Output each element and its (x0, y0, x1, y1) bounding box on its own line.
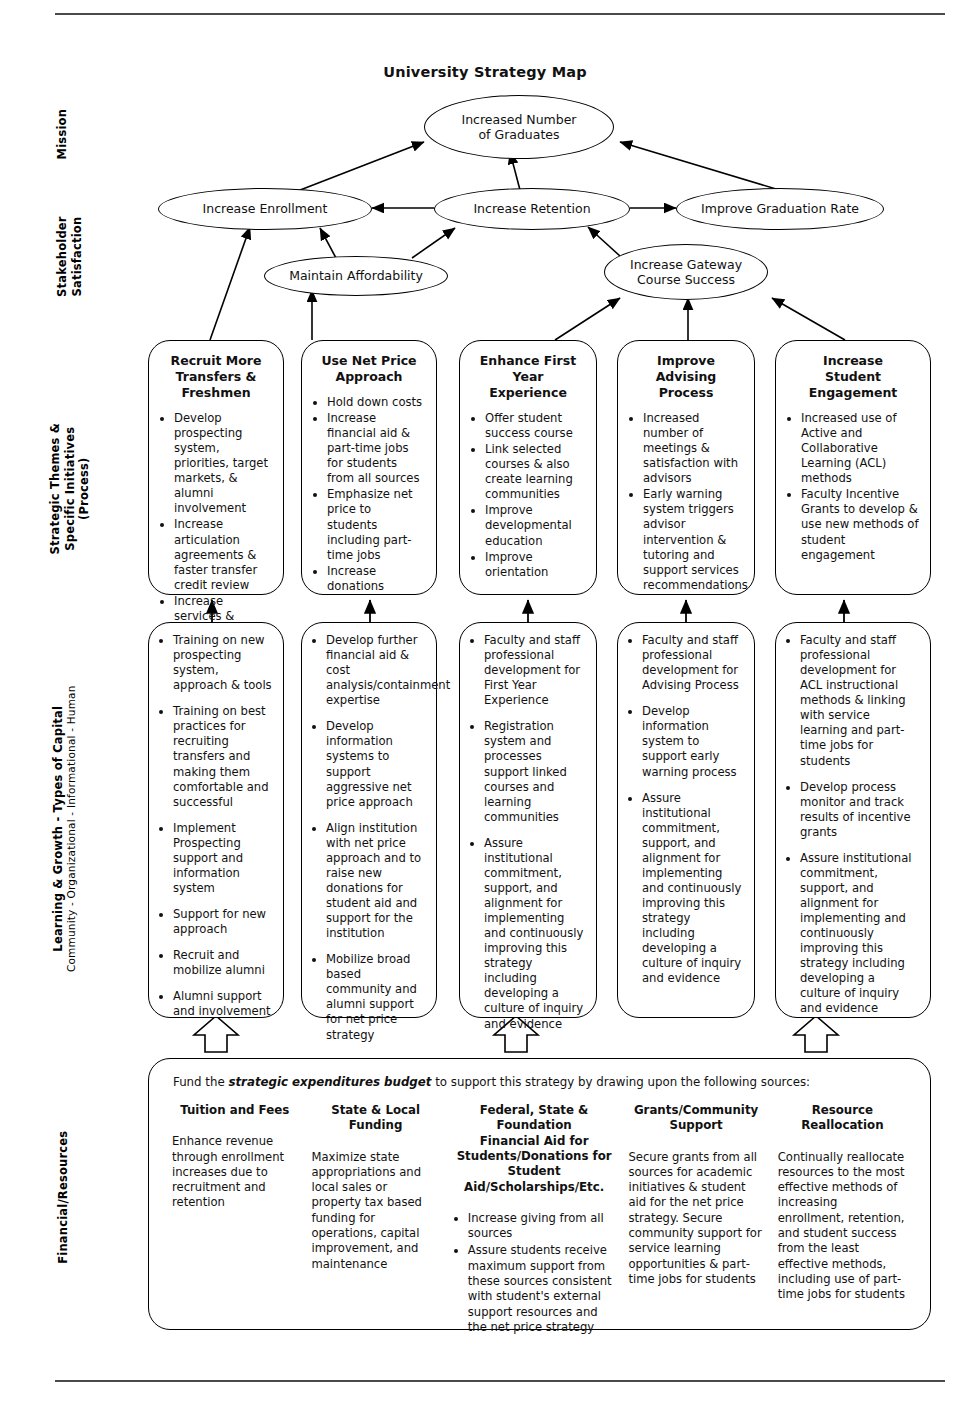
band-label-stakeholder-text: Stakeholder Satisfaction (55, 216, 83, 297)
financial-column-4-body: Secure grants from all sources for acade… (628, 1150, 763, 1288)
capital-box-1-item: Recruit and mobilize alumni (173, 948, 272, 978)
theme-box-2-item: Increase donations (327, 564, 425, 594)
node-mission[interactable]: Increased Number of Graduates (424, 95, 614, 159)
capital-box-1-list: Training on new prospecting system, appr… (160, 633, 272, 1019)
band-label-stakeholder: Stakeholder Satisfaction (41, 184, 84, 329)
capital-box-3-list: Faculty and staff professional developme… (471, 633, 585, 1032)
theme-box-3-item: Improve orientation (485, 550, 585, 580)
financial-column-5-header: Resource Reallocation (778, 1103, 907, 1134)
capital-box-1-item: Implement Prospecting support and inform… (173, 821, 272, 896)
page-rule-top (55, 13, 945, 15)
capital-box-4-item: Develop information system to support ea… (642, 704, 743, 779)
node-maintain-affordability[interactable]: Maintain Affordability (264, 256, 448, 296)
theme-box-5[interactable]: Increase Student Engagement Increased us… (775, 340, 931, 595)
theme-box-2-item: Emphasize net price to students includin… (327, 487, 425, 562)
financial-column-2: State & Local Funding Maximize state app… (304, 1103, 446, 1337)
band-label-learning-growth-text: Learning & Growth - Types of Capital (51, 706, 65, 952)
capital-box-5[interactable]: Faculty and staff professional developme… (775, 622, 931, 1018)
capital-box-2[interactable]: Develop further financial aid & cost ana… (301, 622, 437, 1018)
financial-column-2-body: Maximize state appropriations and local … (311, 1150, 439, 1272)
theme-box-5-item: Increased use of Active and Collaborativ… (801, 411, 919, 486)
financial-resources-panel[interactable]: Fund the strategic expenditures budget t… (148, 1058, 931, 1330)
capital-box-4[interactable]: Faculty and staff professional developme… (617, 622, 755, 1018)
node-improve-graduation-rate-label: Improve Graduation Rate (701, 201, 859, 216)
band-label-learning-growth-sub: Community - Organizational - Information… (65, 631, 78, 1026)
band-label-financial-text: Financial/Resources (56, 1131, 70, 1264)
theme-box-2-item: Hold down costs (327, 395, 425, 410)
theme-box-4-list: Increased number of meetings & satisfact… (629, 411, 743, 593)
financial-column-5: Resource Reallocation Continually reallo… (771, 1103, 914, 1337)
financial-column-3: Federal, State & Foundation Financial Ai… (447, 1103, 622, 1337)
band-label-learning-growth: Learning & Growth - Types of Capital Com… (51, 631, 79, 1026)
financial-column-3-item: Increase giving from all sources (468, 1211, 615, 1242)
theme-box-5-list: Increased use of Active and Collaborativ… (787, 411, 919, 563)
capital-box-2-item: Develop further financial aid & cost ana… (326, 633, 425, 708)
capital-box-5-list: Faculty and staff professional developme… (787, 633, 919, 1017)
theme-box-5-item: Faculty Incentive Grants to develop & us… (801, 487, 919, 562)
theme-box-3[interactable]: Enhance First Year Experience Offer stud… (459, 340, 597, 595)
band-label-strategic-themes: Strategic Themes & Specific Initiatives … (34, 394, 92, 584)
theme-box-1-title: Recruit More Transfers & Freshmen (160, 353, 272, 401)
theme-box-4-title: Improve Advising Process (629, 353, 743, 401)
theme-box-3-list: Offer student success course Link select… (471, 411, 585, 580)
capital-box-1-item: Training on new prospecting system, appr… (173, 633, 272, 693)
capital-box-1[interactable]: Training on new prospecting system, appr… (148, 622, 284, 1018)
theme-box-4-item: Early warning system triggers advisor in… (643, 487, 743, 592)
page-rule-bottom (55, 1380, 945, 1382)
capital-box-1-item: Training on best practices for recruitin… (173, 704, 272, 809)
financial-intro: Fund the strategic expenditures budget t… (173, 1075, 912, 1091)
capital-box-3-item: Assure institutional commitment, support… (484, 836, 585, 1032)
theme-box-2[interactable]: Use Net Price Approach Hold down costs I… (301, 340, 437, 595)
node-improve-graduation-rate[interactable]: Improve Graduation Rate (676, 188, 884, 230)
node-increase-retention[interactable]: Increase Retention (434, 188, 630, 230)
theme-box-1[interactable]: Recruit More Transfers & Freshmen Develo… (148, 340, 284, 595)
financial-columns: Tuition and Fees Enhance revenue through… (165, 1103, 914, 1337)
capital-box-5-item: Develop process monitor and track result… (800, 780, 919, 840)
theme-box-3-item: Offer student success course (485, 411, 585, 441)
financial-column-4: Grants/Community Support Secure grants f… (621, 1103, 770, 1337)
capital-box-2-item: Mobilize broad based community and alumn… (326, 952, 425, 1042)
capital-box-4-item: Faculty and staff professional developme… (642, 633, 743, 693)
node-increase-enrollment-label: Increase Enrollment (203, 201, 328, 216)
theme-box-1-list: Develop prospecting system, priorities, … (160, 411, 272, 654)
capital-box-5-item: Faculty and staff professional developme… (800, 633, 919, 769)
theme-box-2-item: Increase financial aid & part-time jobs … (327, 411, 425, 486)
financial-intro-emphasis: strategic expenditures budget (228, 1075, 431, 1089)
capital-box-1-item: Support for new approach (173, 907, 272, 937)
capital-box-3-item: Registration system and processes suppor… (484, 719, 585, 824)
financial-column-1: Tuition and Fees Enhance revenue through… (165, 1103, 304, 1337)
capital-box-1-item: Alumni support and involvement (173, 989, 272, 1019)
theme-box-3-item: Improve developmental education (485, 503, 585, 548)
node-increase-enrollment[interactable]: Increase Enrollment (158, 188, 372, 230)
financial-column-4-header: Grants/Community Support (628, 1103, 763, 1134)
capital-box-3[interactable]: Faculty and staff professional developme… (459, 622, 597, 1018)
band-label-financial: Financial/Resources (56, 1117, 70, 1277)
financial-column-1-header: Tuition and Fees (172, 1103, 297, 1118)
financial-column-2-header: State & Local Funding (311, 1103, 439, 1134)
node-increase-gateway-course-success-label: Increase Gateway Course Success (630, 257, 742, 288)
node-increase-retention-label: Increase Retention (473, 201, 590, 216)
theme-box-3-item: Link selected courses & also create lear… (485, 442, 585, 502)
financial-column-3-item: Assure students receive maximum support … (468, 1243, 615, 1335)
page-title: University Strategy Map (0, 64, 970, 80)
node-maintain-affordability-label: Maintain Affordability (289, 268, 423, 283)
theme-box-2-list: Hold down costs Increase financial aid &… (313, 395, 425, 594)
node-increase-gateway-course-success[interactable]: Increase Gateway Course Success (604, 244, 768, 300)
theme-box-2-title: Use Net Price Approach (313, 353, 425, 385)
theme-box-1-item: Develop prospecting system, priorities, … (174, 411, 272, 516)
theme-box-1-item: Increase articulation agreements & faste… (174, 517, 272, 592)
capital-box-5-item: Assure institutional commitment, support… (800, 851, 919, 1017)
financial-column-3-list: Increase giving from all sources Assure … (454, 1211, 615, 1335)
capital-box-3-item: Faculty and staff professional developme… (484, 633, 585, 708)
capital-box-2-list: Develop further financial aid & cost ana… (313, 633, 425, 1043)
financial-intro-after: to support this strategy by drawing upon… (431, 1075, 810, 1089)
financial-intro-before: Fund the (173, 1075, 228, 1089)
capital-box-2-item: Align institution with net price approac… (326, 821, 425, 942)
theme-box-3-title: Enhance First Year Experience (471, 353, 585, 401)
band-label-strategic-themes-text: Strategic Themes & Specific Initiatives … (49, 423, 92, 555)
financial-column-3-header: Federal, State & Foundation Financial Ai… (454, 1103, 615, 1195)
capital-box-2-item: Develop information systems to support a… (326, 719, 425, 809)
theme-box-4[interactable]: Improve Advising Process Increased numbe… (617, 340, 755, 595)
theme-box-5-title: Increase Student Engagement (787, 353, 919, 401)
financial-column-5-body: Continually reallocate resources to the … (778, 1150, 907, 1303)
